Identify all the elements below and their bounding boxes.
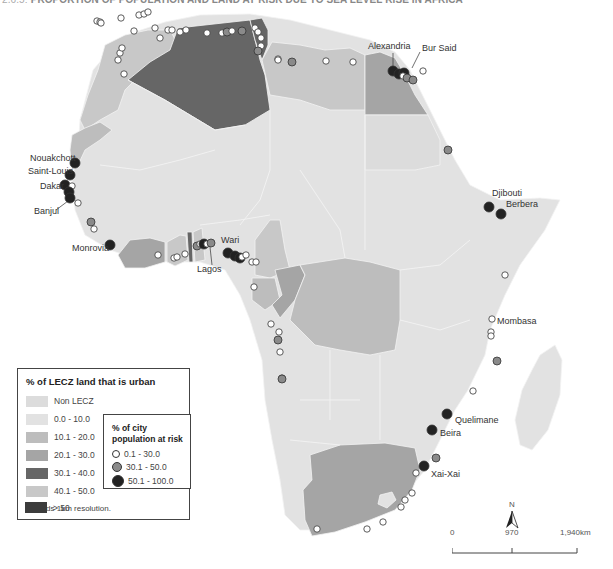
city-marker-low — [314, 526, 320, 532]
city-label: Saint-Louis — [28, 166, 74, 176]
legend-swatch — [26, 468, 48, 479]
city-label: Mombasa — [497, 316, 537, 326]
city-marker-low — [169, 27, 175, 33]
leader-line — [412, 52, 420, 68]
city-marker-mid — [432, 454, 440, 462]
city-marker-high — [65, 193, 75, 203]
city-label: Banjul — [34, 206, 59, 216]
legend-swatch — [26, 486, 48, 497]
legend-item-over-50: > 50 — [25, 502, 70, 513]
white-circle-icon — [112, 450, 120, 458]
city-marker-low — [145, 9, 151, 15]
city-label: Monrovia — [72, 243, 109, 253]
city-label: Berbera — [506, 199, 538, 209]
region-madagascar — [515, 345, 562, 450]
legend-label: Non LECZ — [54, 396, 94, 406]
city-marker-mid — [254, 47, 262, 55]
city-marker-low — [182, 251, 188, 257]
region-egypt — [365, 52, 428, 115]
legend-swatch — [26, 396, 48, 407]
city-legend-label: 50.1 - 100.0 — [128, 476, 173, 486]
city-marker-low — [275, 57, 281, 63]
legend-swatch — [26, 450, 48, 461]
city-label: Dakar — [40, 181, 64, 191]
city-marker-low — [268, 321, 274, 327]
legend-label: 40.1 - 50.0 — [54, 486, 95, 496]
city-marker-low — [402, 497, 408, 503]
legend-swatch — [26, 414, 48, 425]
legend-swatch — [25, 502, 47, 513]
scale-bar: N 0 970 1,940km — [452, 498, 592, 558]
city-marker-low — [502, 272, 508, 278]
city-label: Quelimane — [455, 415, 499, 425]
city-marker-low — [253, 259, 259, 265]
legend-item-0-10: 0.0 - 10.0 — [26, 413, 90, 425]
city-marker-mid — [288, 58, 296, 66]
grey-circle-icon — [112, 462, 122, 472]
city-marker-low — [177, 29, 183, 35]
city-marker-low — [152, 25, 158, 31]
city-label: Beira — [440, 428, 461, 438]
city-marker-high — [442, 409, 452, 419]
city-legend-item-low: 0.1 - 30.0 — [112, 449, 160, 459]
city-marker-low — [204, 30, 210, 36]
city-marker-low — [183, 27, 189, 33]
legend-swatch — [26, 432, 48, 443]
city-marker-low — [258, 35, 264, 41]
city-marker-mid — [274, 336, 282, 344]
city-label: Xai-Xai — [431, 469, 460, 479]
region-south-africa — [303, 443, 420, 536]
city-marker-low — [413, 470, 419, 476]
black-circle-icon — [112, 475, 124, 487]
city-label: Lagos — [197, 264, 222, 274]
city-marker-mid — [207, 239, 215, 247]
city-marker-low — [488, 333, 494, 339]
legend-item-20-30: 20.1 - 30.0 — [26, 449, 95, 461]
city-marker-mid — [238, 27, 246, 35]
legend-item-non-lecz: Non LECZ — [26, 395, 94, 407]
legend-label: 30.1 - 40.0 — [54, 468, 95, 478]
city-marker-low — [115, 57, 121, 63]
city-label: Alexandria — [368, 41, 411, 51]
city-marker-low — [229, 28, 235, 34]
city-marker-low — [75, 200, 81, 206]
city-marker-low — [409, 490, 415, 496]
city-marker-low — [364, 526, 370, 532]
city-marker-low — [420, 68, 426, 74]
city-marker-high — [427, 425, 437, 435]
city-label: Nouakchott — [30, 153, 76, 163]
city-marker-low — [174, 254, 180, 260]
city-legend-item-high: 50.1 - 100.0 — [112, 475, 173, 487]
city-marker-high — [419, 461, 429, 471]
city-marker-low — [131, 28, 137, 34]
legend-label: > 50 — [53, 503, 70, 513]
city-label: Djibouti — [492, 188, 522, 198]
city-marker-low — [470, 388, 476, 394]
land-legend-title: % of LECZ land that is urban — [26, 376, 155, 387]
city-marker-low — [251, 284, 257, 290]
city-marker-low — [98, 20, 104, 26]
city-marker-mid — [87, 218, 95, 226]
city-legend: % of city population at risk 0.1 - 30.0 … — [103, 414, 191, 489]
scale-tick-1940: 1,940km — [560, 528, 591, 537]
city-marker-low — [380, 519, 386, 525]
city-marker-low — [155, 252, 161, 258]
city-marker-low — [243, 252, 249, 258]
city-legend-title: % of city population at risk — [112, 423, 192, 445]
city-marker-low — [119, 45, 125, 51]
city-label: Wari — [221, 235, 239, 245]
city-marker-low — [277, 349, 283, 355]
legend-label: 10.1 - 20.0 — [54, 432, 95, 442]
city-marker-low — [157, 35, 163, 41]
city-legend-item-mid: 30.1 - 50.0 — [112, 462, 167, 472]
region-sudan-upper — [365, 115, 440, 170]
legend-item-30-40: 30.1 - 40.0 — [26, 467, 95, 479]
city-marker-mid — [409, 76, 417, 84]
legend-item-40-50: 40.1 - 50.0 — [26, 485, 95, 497]
city-marker-mid — [278, 375, 286, 383]
city-legend-label: 30.1 - 50.0 — [126, 462, 167, 472]
legend-item-10-20: 10.1 - 20.0 — [26, 431, 95, 443]
scale-tick-0: 0 — [450, 528, 454, 537]
city-legend-label: 0.1 - 30.0 — [124, 449, 160, 459]
legend-label: 0.0 - 10.0 — [54, 414, 90, 424]
